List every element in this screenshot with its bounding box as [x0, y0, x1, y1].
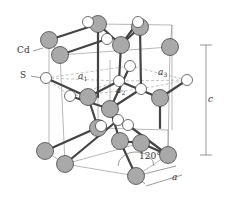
cd-atom	[112, 133, 129, 150]
angle-label: 120°	[139, 152, 161, 161]
s-atom	[182, 75, 193, 86]
cd-atom	[152, 90, 169, 107]
s-atom	[83, 17, 94, 28]
cd-atom	[37, 143, 54, 160]
a1-label: a1	[78, 72, 87, 82]
s-atom	[113, 115, 124, 126]
s-atom	[136, 84, 147, 95]
s-label: S	[20, 71, 26, 80]
s-atom	[133, 17, 144, 28]
crystal-structure-diagram: Cd S a1 a2 a3 c a 120°	[0, 0, 228, 197]
s-atom	[102, 34, 113, 45]
cd-atom	[80, 89, 97, 106]
s-atom	[65, 91, 76, 102]
s-atom	[41, 73, 52, 84]
cd-atom	[113, 37, 130, 54]
s-atom	[123, 120, 134, 131]
a2-label: a2	[116, 86, 125, 96]
diagram-canvas	[0, 0, 228, 197]
s-atom	[96, 121, 107, 132]
a-label: a	[172, 173, 177, 182]
cd-atom	[133, 135, 150, 152]
s-atom	[125, 61, 136, 72]
cd-label: Cd	[17, 46, 30, 55]
cd-atom	[41, 32, 58, 49]
cd-atom	[162, 39, 179, 56]
c-label: c	[208, 95, 213, 104]
a3-label: a3	[158, 68, 167, 78]
cd-atom	[57, 156, 74, 173]
cd-atom	[128, 168, 145, 185]
cd-atom	[160, 147, 177, 164]
cd-atom	[52, 47, 69, 64]
